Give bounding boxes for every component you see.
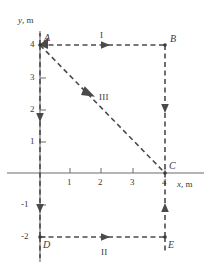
y-tick-label-4: 4 <box>30 40 35 49</box>
x-axis-ticks <box>70 168 165 173</box>
coordinate-diagram: y, m x, m 4 3 2 1 -1 -2 1 2 3 4 A B C D … <box>0 0 209 280</box>
point-label-B: B <box>170 34 176 44</box>
path-segment-III <box>40 45 165 173</box>
point-dot-A <box>38 43 42 47</box>
direction-arrows <box>36 38 169 241</box>
point-label-C: C <box>169 161 176 171</box>
x-axis-label-unit: , m <box>181 179 193 189</box>
path-label-I: I <box>100 31 103 40</box>
arrow-connector-B-to-C <box>161 104 169 113</box>
y-tick-label-1: 1 <box>30 137 35 146</box>
point-label-D: D <box>43 240 50 250</box>
arrow-connector-A-to-D-lower <box>36 204 44 213</box>
y-tick-label-neg2: -2 <box>21 232 29 241</box>
y-axis-label-unit: , m <box>22 15 34 25</box>
point-dot-C <box>163 171 167 175</box>
y-tick-label-neg1: -1 <box>21 200 29 209</box>
axis-lines <box>7 31 204 262</box>
x-tick-label-4: 4 <box>162 178 167 187</box>
path-label-II: II <box>101 248 107 257</box>
arrow-path-II <box>101 233 110 241</box>
x-tick-label-2: 2 <box>98 178 103 187</box>
y-tick-label-3: 3 <box>30 73 35 82</box>
x-tick-label-3: 3 <box>130 178 135 187</box>
point-markers <box>38 43 167 239</box>
point-label-E: E <box>168 240 174 250</box>
y-tick-label-2: 2 <box>30 105 35 114</box>
point-dot-B <box>163 43 167 47</box>
arrow-connector-E-to-C <box>161 203 169 212</box>
arrow-path-I <box>101 41 110 49</box>
point-dot-E <box>163 235 167 239</box>
x-axis-label: x, m <box>177 180 193 189</box>
arrow-path-III <box>81 86 95 97</box>
x-tick-label-1: 1 <box>67 178 72 187</box>
y-axis-label: y, m <box>18 16 34 25</box>
point-label-A: A <box>44 33 50 43</box>
point-dot-D <box>38 235 42 239</box>
arrow-connector-A-to-D-upper <box>36 113 44 122</box>
path-label-III: III <box>99 93 109 102</box>
